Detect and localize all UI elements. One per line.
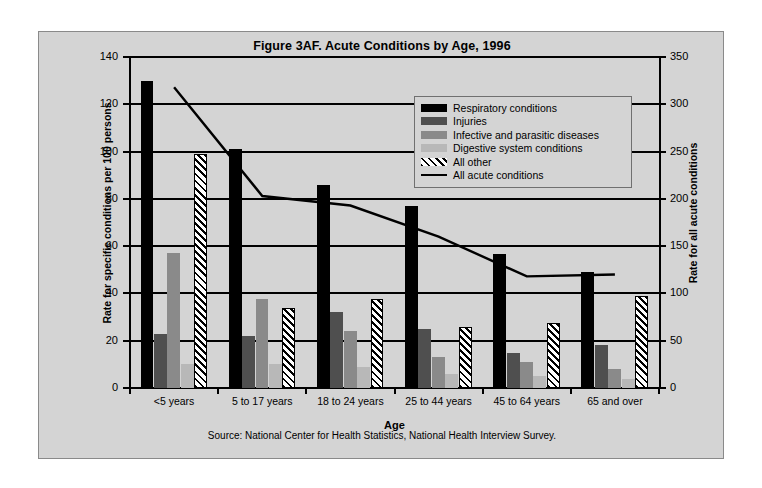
x-tick	[658, 387, 660, 394]
x-tick	[129, 387, 131, 394]
legend-swatch	[421, 144, 447, 152]
legend-label: All acute conditions	[453, 170, 543, 181]
source-note: Source: National Center for Health Stati…	[39, 430, 725, 441]
legend-swatch	[421, 104, 447, 112]
legend-item: Respiratory conditions	[421, 101, 625, 115]
x-tick-label: 18 to 24 years	[306, 395, 394, 407]
legend-swatch	[421, 131, 447, 139]
x-tick	[394, 387, 396, 394]
legend-swatch	[421, 174, 447, 176]
y-tick-right	[659, 56, 666, 58]
y-tick-right	[659, 198, 666, 200]
x-tick	[570, 387, 572, 394]
x-tick	[217, 387, 219, 394]
legend-item: Injuries	[421, 115, 625, 129]
y-tick-right	[659, 245, 666, 247]
y-tick-left	[123, 292, 130, 294]
y-tick-right	[659, 103, 666, 105]
legend-item: Digestive system conditions	[421, 142, 625, 156]
x-tick	[482, 387, 484, 394]
legend-label: All other	[453, 157, 492, 168]
y-tick-left	[123, 56, 130, 58]
legend-label: Respiratory conditions	[453, 103, 557, 114]
y-tick-left	[123, 245, 130, 247]
y-tick-right	[659, 340, 666, 342]
x-tick-label: 45 to 64 years	[483, 395, 571, 407]
chart-title: Figure 3AF. Acute Conditions by Age, 199…	[39, 39, 725, 53]
y-tick-left	[123, 198, 130, 200]
legend-item: All other	[421, 155, 625, 169]
y-tick-left	[123, 151, 130, 153]
legend-swatch	[421, 117, 447, 125]
legend-label: Infective and parasitic diseases	[453, 130, 599, 141]
legend-label: Injuries	[453, 116, 487, 127]
y-tick-right	[659, 292, 666, 294]
x-tick-label: 65 and over	[571, 395, 659, 407]
y-tick-left	[123, 340, 130, 342]
x-tick	[305, 387, 307, 394]
y-tick-right	[659, 151, 666, 153]
chart-page: Figure 3AF. Acute Conditions by Age, 199…	[0, 0, 762, 488]
x-tick-label: 25 to 44 years	[395, 395, 483, 407]
chart-panel: Figure 3AF. Acute Conditions by Age, 199…	[38, 31, 724, 459]
legend-label: Digestive system conditions	[453, 143, 583, 154]
legend-swatch	[421, 158, 447, 166]
legend-item: All acute conditions	[421, 169, 625, 183]
legend-item: Infective and parasitic diseases	[421, 128, 625, 142]
y-tick-right	[659, 387, 666, 389]
x-tick-label: 5 to 17 years	[218, 395, 306, 407]
y-axis-left-title: Rate for specific conditions per 100 per…	[101, 3, 113, 423]
x-tick-label: <5 years	[130, 395, 218, 407]
y-tick-left	[123, 103, 130, 105]
chart-legend: Respiratory conditionsInjuriesInfective …	[414, 96, 632, 188]
y-axis-right-title: Rate for all acute conditions	[687, 3, 699, 423]
